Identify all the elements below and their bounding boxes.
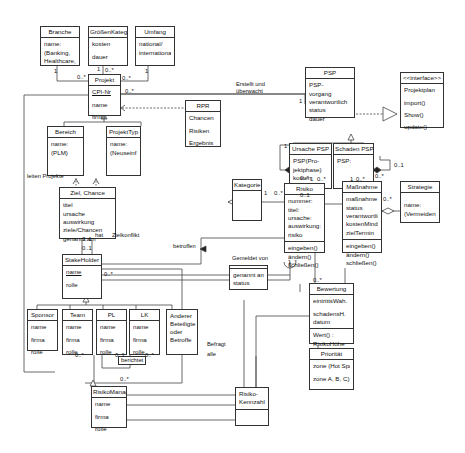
attr: auswirkung	[63, 218, 112, 226]
label-erstellt: Erstellt und	[236, 81, 265, 88]
attr: (Banking,	[44, 49, 76, 57]
attr: name	[66, 268, 98, 276]
attr: Healthcare,..)	[44, 57, 76, 65]
attr: ziele/Chancen	[63, 226, 112, 234]
class-title: Ziel, Chance	[60, 188, 115, 199]
attr: (PLM)	[51, 149, 80, 157]
class-title: Branche	[41, 27, 79, 38]
class-umfang: Umfang national/ international	[135, 26, 175, 66]
class-title: StakeHolder	[63, 255, 101, 266]
attr: international	[139, 49, 171, 57]
class-title: PL	[97, 310, 126, 321]
class-andere-beteiligte: Anderer Beteiligte oder Betroffe	[166, 309, 198, 355]
attr: PSP-	[309, 81, 351, 89]
class-title: PSP	[306, 68, 354, 79]
attr: risiko	[288, 231, 321, 239]
attr: datum	[313, 318, 350, 326]
attr: Ergebnis	[189, 139, 217, 147]
attr: ursache:	[288, 214, 321, 222]
method: update()	[404, 123, 440, 131]
mult: 0..1	[394, 162, 404, 169]
method: schließen()	[346, 259, 378, 267]
mult: 0..1	[82, 245, 92, 252]
label-gemeldet-von: Gemeldet von	[232, 255, 268, 262]
class-projekttyp: ProjektTyp name: (Neuseinf.)	[106, 126, 141, 176]
class-title: RPR	[186, 101, 220, 112]
attr: firma	[100, 336, 123, 344]
mult: 1	[145, 68, 148, 75]
attr: firma	[133, 336, 156, 344]
mult: 0..1	[300, 192, 310, 199]
mult: 0..*	[317, 176, 326, 183]
class-projekt: Projekt CPI-Nr name firma	[88, 74, 121, 116]
attr: jektphase)	[293, 166, 328, 174]
attr: firma	[95, 413, 123, 421]
class-title: Priorität	[310, 349, 353, 360]
label-zielkonflikt: Zielkonflikt	[112, 232, 139, 239]
method: Wert() :	[313, 331, 350, 339]
mult: 0..1	[115, 352, 125, 359]
mult: 0..*	[120, 376, 129, 383]
attr: rolle	[31, 348, 54, 356]
mult: 0..*	[274, 190, 283, 197]
attr: national/	[139, 40, 171, 48]
method: RisikoHöhe	[313, 340, 350, 348]
class-sponsor: Sponsor name firma rolle	[27, 309, 58, 351]
method: eingeben()	[288, 244, 321, 252]
class-title: Risiko- Kennzahl	[236, 388, 268, 410]
attr: Chancen	[189, 114, 217, 122]
attr: maßnahme	[346, 195, 378, 203]
attr: (Neuseinf.)	[110, 149, 137, 157]
attr: titel	[63, 201, 112, 209]
attr: genannt am	[233, 271, 264, 279]
class-risikomanag: RisikoManag name firma rolle	[91, 386, 127, 428]
class-title: <<interface>>	[401, 73, 443, 84]
attr: kostenMind.	[346, 220, 378, 228]
class-title: Maßnahme	[343, 182, 381, 193]
attr: PSP(Pro-	[293, 157, 328, 165]
attr: name:	[44, 40, 76, 48]
class-interface-projektplan: <<interface>> Projektplan import() Show(…	[400, 72, 444, 128]
class-lk: LK name firma rolle	[129, 309, 160, 355]
mult: 0..*	[356, 176, 365, 183]
class-title: Team	[63, 310, 92, 321]
class-massnahme: Maßnahme maßnahme status verantwortlich …	[342, 181, 382, 253]
class-title: Kategorie	[233, 180, 261, 191]
attr: name	[31, 323, 54, 331]
class-strategie: Strategie name: (Vermeiden)	[400, 181, 440, 223]
label-hat: hat	[95, 232, 103, 239]
attr: dauer	[309, 115, 351, 123]
class-genannt-am: genannt am status	[229, 265, 268, 290]
mult: 0..*	[104, 271, 113, 278]
class-title: RisikoManag	[92, 387, 126, 398]
attr: name	[133, 323, 156, 331]
attr: zone (Hot Spot,	[313, 362, 350, 370]
attr: status	[346, 204, 378, 212]
attr: verantwortlich	[309, 98, 351, 106]
mult: 0..*	[375, 173, 384, 180]
mult: 0..1	[82, 236, 92, 243]
attr: name	[95, 400, 123, 408]
attr: firma	[31, 336, 54, 344]
attr: verantwortlich	[346, 212, 378, 220]
class-title: GrößenKateg	[89, 27, 127, 38]
class-title: Bewertung	[310, 284, 353, 295]
attr: status	[309, 106, 351, 114]
mult: 0..*	[75, 352, 84, 359]
class-ziel-chance: Ziel, Chance titel ursache auswirkung zi…	[59, 187, 116, 239]
attr: status	[233, 279, 264, 287]
class-title: ProjektTyp	[107, 127, 140, 138]
class-title: Anderer Beteiligte oder Betroffe	[167, 310, 197, 346]
attr: rolle	[66, 281, 98, 289]
attr: CPI-Nr	[92, 88, 117, 96]
attr: eintrittsWah.	[313, 297, 350, 305]
class-branche: Branche name: (Banking, Healthcare,..)	[40, 26, 80, 66]
class-bereich: Bereich name: (PLM)	[47, 126, 84, 176]
attr: titel:	[288, 206, 321, 214]
class-pl: PL name firma rolle	[96, 309, 127, 355]
class-title: Sponsor	[28, 310, 57, 321]
mult: 0..*	[105, 67, 114, 74]
attr: name	[100, 323, 123, 331]
class-groessenkateg: GrößenKateg kosten dauer	[88, 26, 128, 66]
mult: 0..*	[313, 277, 322, 284]
